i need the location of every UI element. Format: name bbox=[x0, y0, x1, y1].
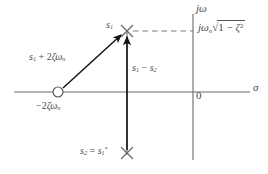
v1-omega-sub: n bbox=[62, 55, 65, 62]
zero-value-label: −2ζωn bbox=[36, 101, 60, 112]
imaginary-part-value-label: jωn√1 − ζ2 bbox=[198, 22, 245, 34]
zero-omega-sub: n bbox=[57, 104, 60, 111]
radicand: 1 − ζ2 bbox=[217, 20, 245, 33]
origin-label: 0 bbox=[196, 90, 202, 101]
imaginary-axis-label: jω bbox=[196, 3, 207, 14]
pole-s1-label: s1 bbox=[106, 20, 113, 31]
s2-b-conjugate-star: * bbox=[105, 145, 108, 152]
radicand-zeta-exponent: 2 bbox=[240, 22, 243, 29]
v1-op: + 2 bbox=[36, 51, 52, 62]
vector-s1-plus-2zeta-wn-label: s1 + 2ζωn bbox=[29, 52, 65, 63]
pole-s2-label: s2 = s1* bbox=[80, 146, 108, 157]
vector-s1-plus-2zeta-wn-arrow bbox=[63, 35, 121, 88]
real-axis-label: σ bbox=[253, 82, 258, 93]
pole-s1-label-sub: 1 bbox=[110, 23, 113, 30]
v2-b-sub: 2 bbox=[154, 66, 157, 73]
vector-s1-minus-s2-label: s1 − s2 bbox=[132, 63, 157, 74]
jwn-omega: ω bbox=[201, 21, 209, 33]
radicand-lead: 1 − bbox=[218, 21, 235, 33]
zero-sign: −2 bbox=[36, 100, 47, 111]
s-plane-pole-zero-figure: jω σ 0 s1 jωn√1 − ζ2 s1 + 2ζωn −2ζωn s1 … bbox=[0, 0, 268, 174]
v2-op: − bbox=[139, 62, 150, 73]
s2-op: = bbox=[87, 145, 98, 156]
zero-marker-open-circle bbox=[53, 87, 63, 97]
